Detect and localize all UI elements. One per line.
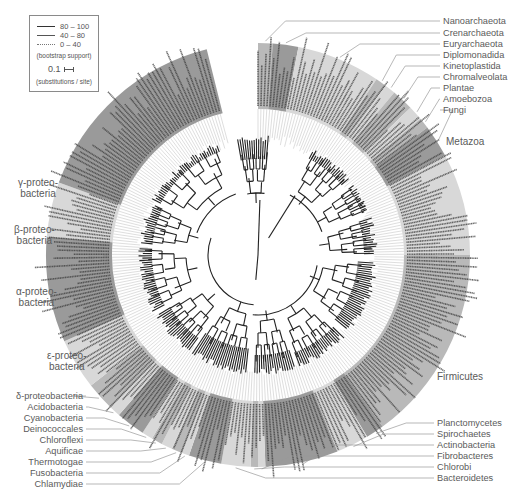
- legend-range: 40 – 80: [60, 31, 85, 40]
- clade-label: ε-proteo- bacteria: [47, 350, 86, 372]
- clade-label: Spirochaetes: [437, 429, 491, 439]
- clade-label: Diplomonadida: [443, 50, 504, 60]
- legend-row-thick: 80 – 100: [37, 22, 89, 31]
- clade-label: Acidobacteria: [27, 402, 83, 412]
- medium-line-icon: [37, 35, 55, 36]
- legend-row-medium: 40 – 80: [37, 31, 85, 40]
- clade-label: γ-proteo- bacteria: [18, 177, 58, 199]
- clade-label: Deinococcales: [23, 424, 83, 434]
- clade-label: Firmicutes: [437, 372, 483, 382]
- clade-label: Thermotogae: [28, 457, 83, 467]
- leaf-spokes: [34, 37, 479, 478]
- clade-label: β-proteo- bacteria: [14, 224, 55, 246]
- clade-label: Chromalveolata: [443, 72, 507, 82]
- thick-line-icon: [37, 26, 55, 27]
- clade-label: α-proteo- bacteria: [16, 286, 57, 308]
- scale-bar: 0.1: [48, 64, 74, 74]
- clade-label: Chlorobi: [437, 462, 471, 472]
- scale-value: 0.1: [48, 64, 61, 74]
- dotted-line-icon: [37, 44, 55, 45]
- clade-label: Planctomycetes: [437, 418, 502, 428]
- clade-label: Plantae: [443, 83, 474, 93]
- clade-label: Amoebozoa: [443, 94, 492, 104]
- legend-range: 80 – 100: [60, 22, 89, 31]
- legend-row-dotted: 0 – 40: [37, 40, 81, 49]
- clade-label: Fibrobacteres: [437, 451, 493, 461]
- scale-bar-icon: [64, 69, 74, 70]
- clade-label: δ-proteobacteria: [16, 391, 83, 401]
- clade-label: Metazoa: [446, 137, 484, 147]
- clade-label: Fungi: [443, 105, 466, 115]
- legend-box: 80 – 100 40 – 80 0 – 40 (bootstrap suppo…: [29, 15, 99, 92]
- clade-label: Chlamydiae: [34, 479, 83, 489]
- support-caption: (bootstrap support): [30, 52, 98, 59]
- legend-range: 0 – 40: [60, 40, 81, 49]
- clade-label: Actinobacteria: [437, 440, 495, 450]
- clade-label: Fusobacteria: [30, 468, 83, 478]
- scale-caption: (substitutions / site): [30, 78, 98, 85]
- clade-label: Aquificae: [45, 446, 83, 456]
- clade-label: Cyanobacteria: [24, 413, 83, 423]
- clade-label: Kinetoplastida: [443, 61, 501, 71]
- tree-branches: [138, 136, 377, 374]
- clade-label: Nanoarchaeota: [443, 16, 506, 26]
- clade-label: Chloroflexi: [40, 435, 83, 445]
- clade-label: Bacteroidetes: [437, 473, 493, 483]
- clade-label: Crenarchaeota: [443, 28, 504, 38]
- clade-label: Euryarchaeota: [443, 39, 503, 49]
